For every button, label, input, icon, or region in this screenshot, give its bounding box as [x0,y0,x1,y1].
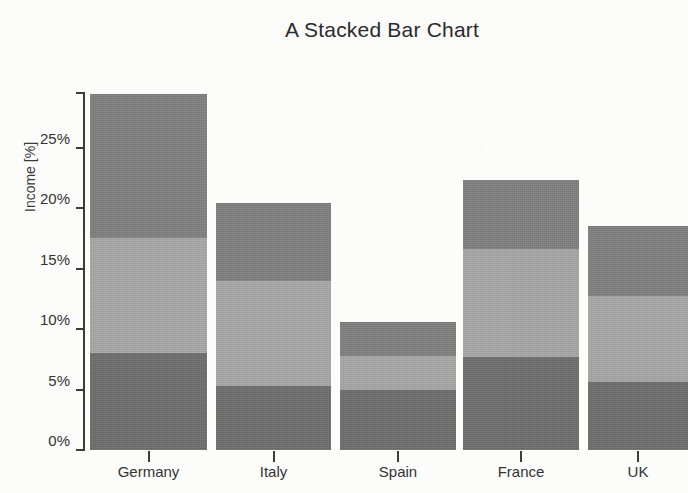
y-tick-mark [76,389,84,391]
bar-uk[interactable] [588,226,688,450]
x-tick-mark [148,451,150,462]
y-tick-label: 10% [0,311,70,328]
bar-segment-bottom-segment [90,353,207,450]
bar-segment-middle-segment [216,281,331,386]
bar-segment-top-segment [340,322,456,356]
x-tick-label-germany: Germany [118,463,180,480]
y-tick-mark [76,147,84,149]
bar-segment-middle-segment [340,356,456,390]
x-tick-label-france: France [498,463,545,480]
bar-segment-bottom-segment [588,382,688,450]
y-tick-label: 20% [0,190,70,207]
bar-segment-top-segment [463,180,579,249]
stacked-bar-chart: A Stacked Bar Chart Income [%] 25%20%15%… [0,0,688,493]
x-tick-mark [273,451,275,462]
x-tick-mark [520,451,522,462]
y-tick-label: 5% [0,372,70,389]
x-tick-label-italy: Italy [260,463,288,480]
plot-area [84,92,688,450]
bar-segment-top-segment [588,226,688,296]
bar-segment-middle-segment [588,296,688,382]
y-tick-mark [76,449,84,451]
bar-germany[interactable] [90,94,207,450]
bar-segment-bottom-segment [216,386,331,450]
x-tick-mark [637,451,639,462]
x-tick-mark [397,451,399,462]
y-tick-mark [76,207,84,209]
y-tick-mark [76,268,84,270]
bar-france[interactable] [463,180,579,450]
y-tick-label: 15% [0,251,70,268]
x-tick-label-uk: UK [628,463,649,480]
bar-segment-bottom-segment [463,357,579,450]
bar-italy[interactable] [216,203,331,450]
y-tick-label: 0% [0,432,70,449]
y-axis-cap-top [76,92,84,94]
bar-segment-bottom-segment [340,390,456,450]
y-tick-mark [76,328,84,330]
y-tick-label: 25% [0,130,70,147]
bar-segment-middle-segment [90,238,207,353]
x-tick-label-spain: Spain [379,463,417,480]
bar-segment-middle-segment [463,249,579,357]
bar-segment-top-segment [90,94,207,238]
bar-spain[interactable] [340,322,456,450]
chart-title: A Stacked Bar Chart [0,18,688,42]
bar-segment-top-segment [216,203,331,280]
